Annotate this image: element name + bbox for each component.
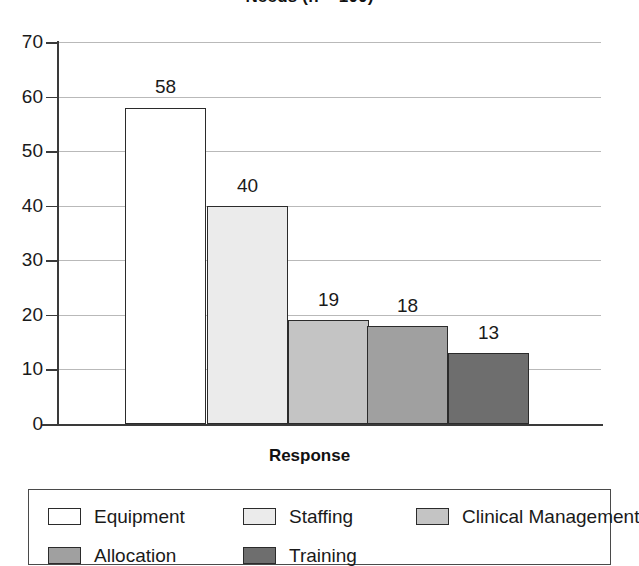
y-axis-tick-labels: 706050403020100 [0,0,43,565]
chart-title: Needs (n = 100) [0,0,619,7]
legend-label: Training [289,546,357,565]
legend-item-allocation[interactable]: Allocation [48,546,176,565]
y-axis-tick-label: 50 [3,141,43,160]
bar [207,206,288,424]
plot-area [58,42,601,424]
legend: EquipmentStaffingClinical ManagementAllo… [28,489,611,565]
legend-item-training[interactable]: Training [243,546,357,565]
legend-item-equipment[interactable]: Equipment [48,507,185,526]
bars-layer [58,42,601,424]
legend-swatch-icon [243,547,276,564]
x-axis-title: Response [0,446,619,466]
y-axis-line [57,41,59,426]
bar [367,326,448,424]
bar [125,108,206,425]
legend-label: Staffing [289,507,353,526]
y-axis-tick-label: 20 [3,305,43,324]
bar [448,353,529,424]
bar-value-label: 18 [397,296,418,315]
legend-item-clinical-management[interactable]: Clinical Management [416,507,639,526]
y-axis-tick-label: 10 [3,359,43,378]
legend-swatch-icon [243,508,276,525]
y-axis-tick-label: 60 [3,87,43,106]
y-axis-tick-label: 0 [3,414,43,433]
bar [288,320,369,424]
legend-swatch-icon [416,508,449,525]
legend-label: Clinical Management [462,507,639,526]
y-axis-tick-label: 30 [3,250,43,269]
legend-label: Allocation [94,546,176,565]
x-axis-line [42,424,603,426]
y-axis-tick-label: 70 [3,32,43,51]
bar-value-label: 19 [318,290,339,309]
legend-item-staffing[interactable]: Staffing [243,507,353,526]
bar-value-label: 13 [478,323,499,342]
legend-swatch-icon [48,508,81,525]
legend-swatch-icon [48,547,81,564]
y-axis-tick-label: 40 [3,196,43,215]
legend-label: Equipment [94,507,185,526]
bar-value-label: 58 [155,77,176,96]
bar-value-label: 40 [237,176,258,195]
